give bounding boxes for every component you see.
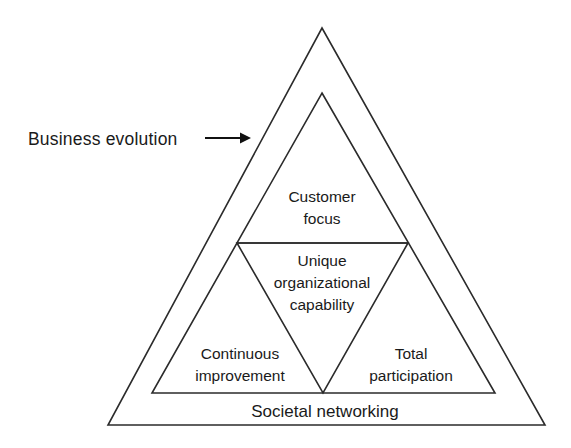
zone-label-unique-capability-line1: Unique: [297, 252, 346, 269]
zone-label-unique-capability-line3: capability: [290, 296, 355, 313]
business-evolution-triangle-diagram: Business evolution Customer focus Unique…: [0, 0, 571, 448]
zone-label-total-participation-line2: participation: [369, 367, 453, 384]
zone-label-customer-focus-line1: Customer: [288, 188, 355, 205]
right-arrow-icon: [240, 133, 251, 144]
zone-label-continuous-improvement-line1: Continuous: [201, 345, 280, 362]
zone-label-societal-networking: Societal networking: [251, 402, 398, 421]
diagram-canvas: Business evolution Customer focus Unique…: [0, 0, 571, 448]
zone-label-total-participation-line1: Total: [395, 345, 428, 362]
zone-label-continuous-improvement-line2: improvement: [195, 367, 285, 384]
zone-label-unique-capability-line2: organizational: [274, 274, 371, 291]
callout-label-business-evolution: Business evolution: [28, 129, 178, 149]
zone-label-customer-focus-line2: focus: [303, 210, 340, 227]
